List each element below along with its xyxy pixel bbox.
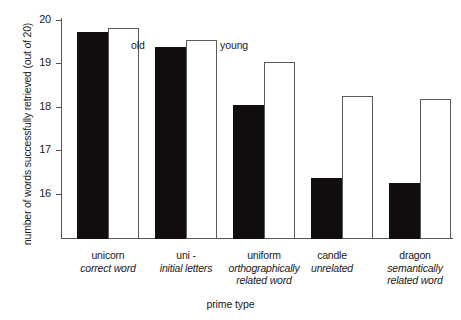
y-tick-label-20: 20 bbox=[29, 13, 51, 25]
x-category-desc-dragon: semantically related word bbox=[371, 262, 459, 287]
y-axis-title: number of words successfully retrieved (… bbox=[21, 14, 33, 254]
bar-old-uni bbox=[155, 47, 186, 239]
x-category-word-candle: candle bbox=[300, 249, 364, 262]
bar-old-uniform bbox=[233, 105, 264, 239]
bar-chart: number of words successfully retrieved (… bbox=[0, 0, 461, 320]
bar-old-unicorn bbox=[77, 32, 108, 239]
series-annotation-old: old bbox=[131, 39, 145, 51]
bar-young-uniform bbox=[264, 62, 295, 239]
bar-young-dragon bbox=[420, 99, 451, 239]
y-tick-mark-19 bbox=[56, 63, 61, 64]
y-tick-mark-20 bbox=[56, 20, 61, 21]
bar-young-unicorn bbox=[108, 28, 139, 239]
y-tick-mark-17 bbox=[56, 150, 61, 151]
bar-young-candle bbox=[342, 96, 373, 239]
x-category-desc-candle: unrelated bbox=[300, 262, 364, 275]
y-tick-label-18: 18 bbox=[29, 100, 51, 112]
x-category-word-dragon: dragon bbox=[371, 249, 459, 262]
x-category-label-uniform: uniform orthographically related word bbox=[216, 249, 312, 287]
y-axis-line bbox=[61, 18, 62, 239]
y-tick-label-16: 16 bbox=[29, 187, 51, 199]
x-category-word-uniform: uniform bbox=[216, 249, 312, 262]
x-category-desc-uniform: orthographically related word bbox=[216, 262, 312, 287]
x-category-label-candle: candle unrelated bbox=[300, 249, 364, 274]
x-category-label-dragon: dragon semantically related word bbox=[371, 249, 459, 287]
bar-young-uni bbox=[186, 40, 217, 239]
bar-old-candle bbox=[311, 178, 342, 239]
series-annotation-young: young bbox=[220, 39, 248, 51]
y-tick-label-19: 19 bbox=[29, 56, 51, 68]
y-tick-mark-16 bbox=[56, 194, 61, 195]
x-axis-title: prime type bbox=[0, 298, 461, 310]
y-tick-label-17: 17 bbox=[29, 143, 51, 155]
bar-old-dragon bbox=[389, 183, 420, 239]
y-tick-mark-18 bbox=[56, 107, 61, 108]
